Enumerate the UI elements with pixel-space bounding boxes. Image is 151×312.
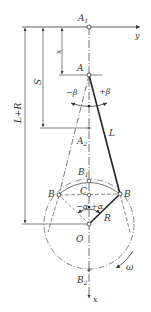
point-B1 [87, 179, 91, 183]
label-A: A [76, 63, 84, 73]
point-B-right [118, 192, 122, 196]
point-B2 [87, 268, 90, 271]
label-C: C [80, 186, 87, 196]
label-R: R [103, 213, 111, 223]
crank-slider-mechanism-diagram: A1 y x A S L+R −β +β L A2 B1 C B B −α +α… [0, 0, 151, 312]
label-S: S [33, 79, 43, 85]
label-plus-alpha: +α [91, 202, 104, 211]
label-L: L [108, 128, 115, 138]
point-A [87, 73, 91, 77]
label-plus-beta: +β [99, 87, 111, 96]
label-omega: ω [126, 262, 134, 272]
point-C [87, 193, 91, 197]
label-x-dim: x [54, 49, 63, 54]
label-x-axis: x [93, 295, 98, 304]
label-B1: B1 [77, 167, 88, 178]
point-A2 [88, 127, 91, 130]
point-A1 [87, 25, 91, 29]
label-minus-alpha: −α [76, 202, 89, 211]
label-B2: B2 [76, 275, 88, 286]
label-B-left: B [47, 189, 55, 199]
label-A1: A1 [77, 13, 88, 24]
rod-extension-right [120, 194, 130, 232]
label-L-plus-R: L+R [13, 102, 23, 124]
point-beta-center [88, 105, 91, 108]
label-B-right: B [123, 189, 131, 199]
rod-extension-left [48, 195, 59, 232]
label-O: O [76, 234, 84, 244]
label-A2: A2 [76, 136, 88, 147]
point-B-left [57, 193, 61, 197]
label-minus-beta: −β [66, 88, 78, 97]
label-y-axis: y [134, 31, 140, 40]
point-O [87, 222, 91, 226]
